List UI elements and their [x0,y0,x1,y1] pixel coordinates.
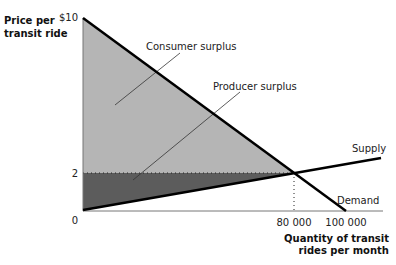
y-axis-title-line2: transit ride [4,28,68,39]
y-tick-0: 0 [72,215,78,226]
demand-label: Demand [337,195,379,206]
x-axis-title-line2: rides per month [299,245,389,256]
y-tick-2: 2 [72,168,78,179]
surplus-chart: Price per transit ride $10 2 0 80 000 10… [0,0,396,265]
supply-label: Supply [352,143,386,154]
y-axis-title-line1: Price per [4,15,55,26]
x-tick-100000: 100 000 [325,217,366,228]
x-axis-title-line1: Quantity of transit [284,233,389,244]
producer-surplus-label: Producer surplus [213,81,297,92]
y-tick-10: $10 [59,12,78,23]
consumer-surplus-label: Consumer surplus [146,41,237,52]
x-tick-80000: 80 000 [277,217,312,228]
